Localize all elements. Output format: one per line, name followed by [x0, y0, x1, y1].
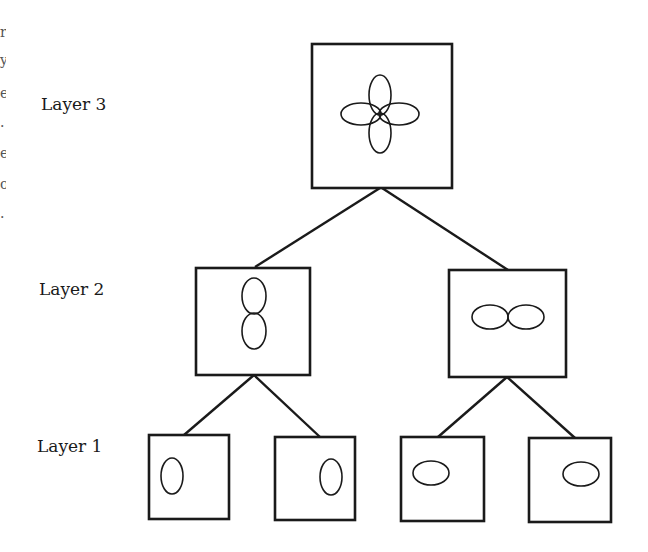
vertical-ellipse-pair-icon	[242, 278, 266, 349]
edge-n2b-n1c	[438, 377, 507, 437]
node-layer2-right	[449, 270, 566, 377]
horizontal-ellipse-icon	[563, 462, 599, 486]
four-petal-ellipses-icon	[341, 75, 419, 153]
hierarchy-diagram	[0, 0, 648, 552]
edge-n2a-n1b	[254, 375, 320, 437]
edge-n2a-n1a	[184, 375, 254, 435]
node-layer2-left	[196, 268, 310, 375]
horizontal-ellipse-icon	[413, 461, 449, 485]
horizontal-ellipse-pair-icon	[472, 305, 544, 329]
edges	[184, 188, 575, 438]
vertical-ellipse-icon	[161, 458, 183, 494]
edge-n3-n2b	[382, 188, 508, 270]
vertical-ellipse-icon	[320, 459, 342, 495]
node-layer1-d	[529, 438, 611, 522]
node-layer3	[312, 44, 452, 188]
node-layer1-b	[275, 437, 355, 520]
node-layer1-c	[401, 437, 484, 521]
edge-n2b-n1d	[507, 377, 575, 438]
edge-n3-n2a	[255, 188, 380, 267]
